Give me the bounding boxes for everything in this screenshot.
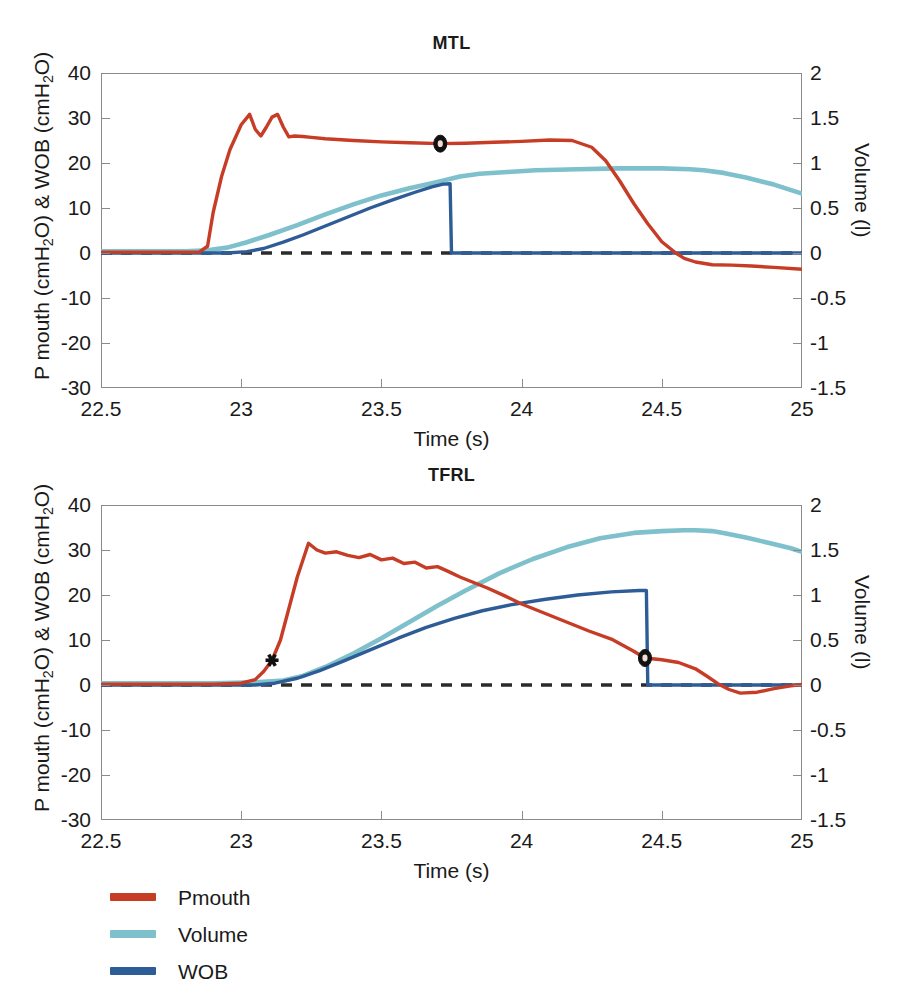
- y-tick-mark-left: [101, 640, 110, 641]
- y-tick-mark-right: [793, 730, 802, 731]
- legend-swatch-pmouth: [110, 893, 156, 901]
- y-tick-label-right: 0: [810, 673, 880, 697]
- y-tick-mark-right: [793, 640, 802, 641]
- x-tick-label: 22.5: [56, 829, 146, 853]
- series-volume: [101, 530, 802, 683]
- y-tick-mark-right: [793, 775, 802, 776]
- page-title: MTL: [101, 33, 802, 54]
- x-tick-mark: [381, 379, 382, 388]
- y-axis-label-right: Volume (l): [850, 143, 874, 238]
- y-tick-mark-right: [793, 163, 802, 164]
- y-tick-mark-right: [793, 685, 802, 686]
- y-tick-mark-left: [101, 685, 110, 686]
- legend-item-volume[interactable]: Volume: [110, 917, 248, 951]
- y-tick-mark-left: [101, 343, 110, 344]
- y-tick-mark-left: [101, 730, 110, 731]
- legend-swatch-wob: [110, 967, 156, 975]
- x-tick-label: 25: [757, 829, 847, 853]
- y-tick-mark-left: [101, 298, 110, 299]
- chart-panel-tfrl: TFRL 403020100-10-20-3021.510.50-0.5-1-1…: [0, 457, 897, 912]
- y-tick-mark-right: [793, 208, 802, 209]
- y-tick-label-right: 2: [810, 61, 880, 85]
- y-tick-mark-right: [793, 118, 802, 119]
- legend-swatch-volume: [110, 930, 156, 938]
- y-axis-label-left: P mouth (cmH2O) & WOB (cmH2O): [30, 52, 54, 380]
- y-tick-label-right: 1.5: [810, 106, 880, 130]
- x-tick-label: 24.5: [617, 397, 707, 421]
- x-tick-mark: [522, 811, 523, 820]
- x-tick-label: 23.5: [336, 397, 426, 421]
- pmouth-marker-inner: [438, 140, 443, 147]
- legend: PmouthVolumeWOB: [0, 880, 897, 1000]
- y-tick-label-right: 1.5: [810, 538, 880, 562]
- y-tick-mark-left: [101, 775, 110, 776]
- x-tick-mark: [241, 811, 242, 820]
- x-tick-mark: [662, 811, 663, 820]
- pmouth-marker-inner: [642, 655, 647, 662]
- y-tick-mark-right: [793, 298, 802, 299]
- y-tick-label-right: 2: [810, 493, 880, 517]
- series-wob: [101, 184, 802, 253]
- y-axis-label-left-2: P mouth (cmH2O) & WOB (cmH2O): [30, 484, 54, 812]
- y-tick-label-right: 0: [810, 241, 880, 265]
- y-tick-label-right: -0.5: [810, 718, 880, 742]
- plot-area-tfrl: [101, 505, 802, 820]
- x-tick-mark: [241, 379, 242, 388]
- y-tick-mark-left: [101, 595, 110, 596]
- y-tick-mark-left: [101, 163, 110, 164]
- legend-item-wob[interactable]: WOB: [110, 954, 228, 988]
- x-tick-mark: [381, 811, 382, 820]
- y-tick-mark-right: [793, 550, 802, 551]
- x-tick-label: 25: [757, 397, 847, 421]
- x-tick-label: 24: [477, 829, 567, 853]
- y-tick-label-right: -1: [810, 331, 880, 355]
- x-tick-label: 23.5: [336, 829, 426, 853]
- x-tick-label: 24.5: [617, 829, 707, 853]
- legend-label: WOB: [178, 961, 228, 982]
- y-tick-mark-left: [101, 208, 110, 209]
- legend-label: Volume: [178, 924, 248, 945]
- x-tick-label: 22.5: [56, 397, 146, 421]
- chart-panel-mtl: MTL 403020100-10-20-3021.510.50-0.5-1-1.…: [0, 25, 897, 480]
- y-tick-label-right: -0.5: [810, 286, 880, 310]
- page-title-2: TFRL: [101, 465, 802, 486]
- x-tick-label: 23: [196, 397, 286, 421]
- x-tick-mark: [662, 379, 663, 388]
- y-axis-label-right-2: Volume (l): [850, 575, 874, 670]
- legend-item-pmouth[interactable]: Pmouth: [110, 880, 250, 914]
- x-tick-label: 23: [196, 829, 286, 853]
- y-tick-mark-right: [793, 595, 802, 596]
- y-tick-mark-left: [101, 550, 110, 551]
- y-tick-mark-left: [101, 253, 110, 254]
- legend-label: Pmouth: [178, 887, 250, 908]
- x-axis-label: Time (s): [101, 427, 802, 451]
- y-tick-mark-right: [793, 343, 802, 344]
- y-tick-label-right: -1: [810, 763, 880, 787]
- y-tick-mark-right: [793, 253, 802, 254]
- x-tick-mark: [522, 379, 523, 388]
- plot-area-mtl: [101, 73, 802, 388]
- y-tick-mark-left: [101, 118, 110, 119]
- x-tick-label: 24: [477, 397, 567, 421]
